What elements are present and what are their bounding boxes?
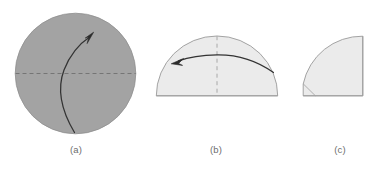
panel-b-caption: (b) xyxy=(186,144,246,155)
panel-c-caption: (c) xyxy=(310,144,370,155)
panel-a-group xyxy=(15,13,136,134)
figure-panel: (a) (b) (c) xyxy=(0,0,378,185)
panel-a-caption: (a) xyxy=(46,144,106,155)
quarter-disk-shape xyxy=(303,36,363,96)
panel-b-group xyxy=(156,36,277,96)
figure-illustration xyxy=(0,0,378,185)
panel-c-group xyxy=(303,36,363,96)
